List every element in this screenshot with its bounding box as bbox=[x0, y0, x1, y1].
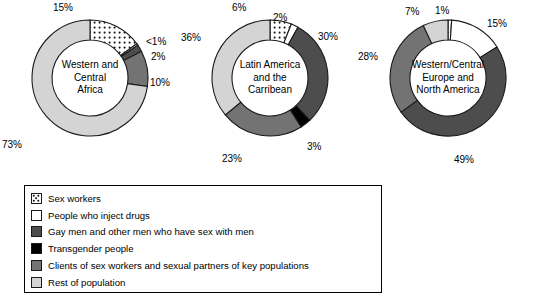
legend-label-people-who-inject-drugs: People who inject drugs bbox=[48, 210, 150, 221]
donut-2-pct-label-4: 23% bbox=[222, 154, 242, 164]
donut-chart-row: Western and Central Africa 15%<1%2%10%73… bbox=[0, 0, 540, 180]
legend-label-clients: Clients of sex workers and sexual partne… bbox=[48, 260, 309, 271]
legend-item-people-who-inject-drugs: People who inject drugs bbox=[31, 207, 375, 224]
white-swatch-icon bbox=[31, 210, 42, 221]
donut-2-segment-4 bbox=[225, 102, 301, 136]
donut-2-pct-label-5: 36% bbox=[181, 33, 201, 43]
donut-3-pct-label-1: 1% bbox=[435, 6, 449, 16]
donut-3-segment-4 bbox=[390, 26, 432, 113]
donut-1-pct-label-4: 73% bbox=[2, 140, 22, 150]
legend-item-gay-men: Gay men and other men who have sex with … bbox=[31, 224, 375, 241]
legend-item-clients: Clients of sex workers and sexual partne… bbox=[31, 257, 375, 274]
light-gray-swatch-icon bbox=[31, 277, 42, 288]
donut-3-graphic bbox=[386, 16, 510, 140]
donut-chart-western-europe-north-america: Western/Central Europe and North America… bbox=[358, 0, 538, 180]
donut-chart-western-central-africa: Western and Central Africa 15%<1%2%10%73… bbox=[0, 0, 180, 180]
donut-2-graphic bbox=[208, 16, 332, 140]
donut-1-pct-label-2: 2% bbox=[151, 52, 165, 62]
donut-1-pct-label-1: <1% bbox=[146, 37, 166, 47]
donut-1-pct-label-0: 15% bbox=[53, 3, 73, 13]
donut-2-segment-5 bbox=[212, 20, 270, 115]
donut-1-svg bbox=[28, 16, 152, 140]
legend-label-sex-workers: Sex workers bbox=[48, 193, 101, 204]
donut-2-pct-label-2: 30% bbox=[318, 32, 338, 42]
dark-gray-swatch-icon bbox=[31, 226, 42, 237]
donut-1-graphic bbox=[28, 16, 152, 140]
donut-3-pct-label-0: 7% bbox=[405, 7, 419, 17]
legend-label-transgender-people: Transgender people bbox=[48, 243, 134, 254]
donut-2-pct-label-3: 3% bbox=[307, 142, 321, 152]
donut-2-pct-label-0: 6% bbox=[232, 3, 246, 13]
legend-label-gay-men: Gay men and other men who have sex with … bbox=[48, 226, 254, 237]
mid-gray-swatch-icon bbox=[31, 260, 42, 271]
chart-legend: Sex workers People who inject drugs Gay … bbox=[24, 185, 382, 293]
black-swatch-icon bbox=[31, 243, 42, 254]
donut-2-svg bbox=[208, 16, 332, 140]
chart-figure: Western and Central Africa 15%<1%2%10%73… bbox=[0, 0, 540, 307]
donut-3-svg bbox=[386, 16, 510, 140]
donut-2-pct-label-1: 2% bbox=[273, 13, 287, 23]
donut-3-segment-2 bbox=[401, 47, 506, 136]
donut-3-pct-label-4: 28% bbox=[358, 52, 378, 62]
donut-1-segments bbox=[32, 20, 148, 136]
donut-1-pct-label-3: 10% bbox=[150, 78, 170, 88]
legend-item-rest-of-population: Rest of population bbox=[31, 274, 375, 291]
dotted-pattern-swatch-icon bbox=[31, 193, 42, 204]
legend-label-rest-of-population: Rest of population bbox=[48, 277, 125, 288]
donut-3-pct-label-3: 49% bbox=[454, 155, 474, 165]
legend-item-transgender-people: Transgender people bbox=[31, 240, 375, 257]
donut-chart-latin-america-carribean: Latin America and the Carribean 6%2%30%3… bbox=[180, 0, 360, 180]
donut-2-segments bbox=[212, 20, 328, 136]
donut-3-pct-label-2: 15% bbox=[487, 19, 507, 29]
legend-item-sex-workers: Sex workers bbox=[31, 190, 375, 207]
donut-3-segments bbox=[390, 20, 506, 136]
